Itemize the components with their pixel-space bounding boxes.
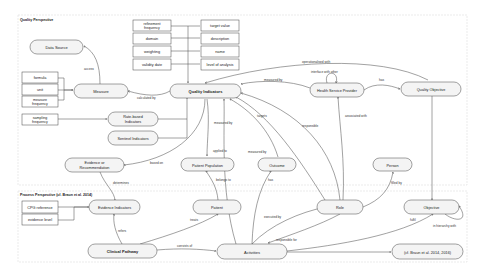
attr-formula: formula — [22, 72, 58, 83]
attr-measure-frequency: measure frequency — [22, 96, 58, 107]
node-evidence-indicators[interactable]: Evidence Indicators — [89, 200, 140, 214]
attr-sampling-frequency: sampling frequency — [22, 114, 58, 125]
node-braun-reference[interactable]: (cf. Braun et al. 2014, 2016) — [392, 244, 463, 259]
attr-refinement-frequency: refinement frequency — [133, 20, 171, 31]
svg-text:Patient Population: Patient Population — [192, 164, 223, 168]
svg-text:Data Source: Data Source — [45, 45, 68, 50]
svg-text:Evidence Indicators: Evidence Indicators — [98, 206, 131, 210]
svg-text:Role: Role — [336, 206, 344, 210]
node-patient-population[interactable]: Patient Population — [181, 158, 234, 171]
svg-text:Objective: Objective — [424, 206, 440, 210]
edge-label-treats: treats — [190, 218, 198, 222]
node-role[interactable]: Role — [317, 200, 363, 214]
svg-text:frequency: frequency — [144, 26, 160, 30]
svg-text:frequency: frequency — [32, 120, 48, 124]
edge-label-access: access — [84, 67, 94, 71]
node-rate-based-indicators[interactable]: Rate-based Indicators — [108, 112, 158, 126]
edge-label-applied-to: applied to — [213, 149, 227, 153]
svg-text:(cf. Braun et al. 2014, 2016): (cf. Braun et al. 2014, 2016) — [404, 251, 452, 255]
svg-text:weighting: weighting — [144, 50, 160, 54]
svg-text:Activities: Activities — [244, 250, 260, 255]
node-measure[interactable]: Measure — [74, 84, 128, 98]
svg-text:CPG reference: CPG reference — [27, 206, 52, 210]
node-clinical-pathway[interactable]: Clinical Pathway — [88, 244, 157, 258]
edge-label-measured-by-activities: measured by — [214, 121, 233, 125]
edge-label-in-hierarchy-with: in hierarchy with — [433, 224, 456, 228]
svg-text:Health Service Provider: Health Service Provider — [317, 89, 358, 93]
node-quality-indicators[interactable]: Quality Indicators — [170, 84, 241, 98]
svg-text:Clinical Pathway: Clinical Pathway — [107, 249, 139, 254]
svg-text:Rate-based: Rate-based — [123, 115, 143, 119]
svg-text:level of analysis: level of analysis — [207, 63, 234, 67]
edge-label-filled-by: filled by — [391, 181, 402, 185]
edge-label-operationalised-with: operationalised with — [302, 60, 330, 64]
svg-text:Person: Person — [386, 164, 398, 168]
svg-text:Patient: Patient — [211, 206, 224, 210]
node-health-service-provider[interactable]: Health Service Provider — [310, 83, 364, 97]
edge-label-responsible: responsible — [302, 124, 319, 128]
edge-label-associated-with: associated with — [345, 114, 367, 118]
node-data-source[interactable]: Data Source — [30, 40, 83, 54]
attr-unit: unit — [22, 84, 58, 95]
attr-cpg-reference: CPG reference — [22, 201, 58, 213]
svg-text:Evidence or: Evidence or — [84, 161, 105, 165]
edge-label-determines: determines — [113, 181, 129, 185]
svg-text:Quality Indicators: Quality Indicators — [189, 89, 224, 94]
attr-weighting: weighting — [133, 46, 171, 57]
svg-text:description: description — [211, 37, 229, 41]
svg-text:formula: formula — [34, 76, 48, 80]
node-quality-objective[interactable]: Quality Objective — [401, 82, 461, 96]
edge-label-has-outcome: has — [268, 178, 274, 182]
node-objective[interactable]: Objective — [404, 200, 459, 214]
edge-label-interface-with-other: interface with other — [311, 70, 339, 74]
concept-diagram: Quality Perspective Process Perspective … — [0, 0, 486, 277]
svg-text:Measure: Measure — [93, 89, 109, 94]
svg-text:validity date: validity date — [142, 63, 162, 67]
process-perspective-title: Process Perspective (cf. Braun et al. 20… — [20, 193, 93, 197]
svg-text:Sentinel Indicators: Sentinel Indicators — [117, 137, 148, 141]
svg-text:Indicators: Indicators — [125, 120, 142, 124]
attr-domain: domain — [133, 33, 171, 44]
svg-text:name: name — [215, 50, 225, 54]
attr-validity-date: validity date — [133, 59, 171, 70]
node-outcome[interactable]: Outcome — [258, 158, 296, 171]
attr-evidence-level: evidence level — [22, 214, 58, 225]
svg-text:domain: domain — [146, 37, 158, 41]
edge-label-responsible-for: responsible for — [276, 238, 298, 242]
svg-text:refinement: refinement — [144, 22, 161, 26]
svg-text:Outcome: Outcome — [269, 164, 284, 168]
edge-label-fulfil: fulfil — [410, 218, 416, 222]
quality-perspective-title: Quality Perspective — [20, 18, 53, 22]
edge-label-belongs-to: belongs to — [216, 178, 231, 182]
edge-label-measured-by-outcome: measured by — [248, 150, 267, 154]
svg-text:Quality Objective: Quality Objective — [417, 88, 446, 92]
node-activities[interactable]: Activities — [217, 244, 287, 259]
svg-text:frequency: frequency — [32, 102, 48, 106]
attr-level-of-analysis: level of analysis — [201, 59, 239, 70]
edge-label-measured-by-hsp: measured by — [264, 78, 283, 82]
edge-label-calculated-by: calculated by — [137, 96, 156, 100]
svg-text:measure: measure — [33, 98, 47, 102]
edge-label-refers: refers — [118, 229, 127, 233]
node-person[interactable]: Person — [373, 158, 412, 171]
node-sentinel-indicators[interactable]: Sentinel Indicators — [108, 131, 158, 145]
svg-text:unit: unit — [37, 88, 44, 92]
attr-description: description — [201, 33, 239, 44]
node-evidence-or-recommendation[interactable]: Evidence or Recommendation — [65, 158, 124, 172]
node-patient[interactable]: Patient — [193, 200, 241, 214]
svg-text:Recommendation: Recommendation — [80, 166, 110, 170]
svg-text:sampling: sampling — [33, 116, 47, 120]
edge-label-based-on: based on — [150, 161, 163, 165]
attr-target-value: target value — [201, 20, 239, 31]
edge-label-consists-of: consists of — [177, 244, 192, 248]
edge-label-has-qo: has — [379, 78, 385, 82]
attr-name: name — [201, 46, 239, 57]
edge-label-executed-by: executed by — [264, 215, 282, 219]
svg-text:evidence level: evidence level — [28, 218, 52, 222]
edge-label-targets: targets — [257, 114, 267, 118]
svg-text:target value: target value — [210, 24, 230, 28]
